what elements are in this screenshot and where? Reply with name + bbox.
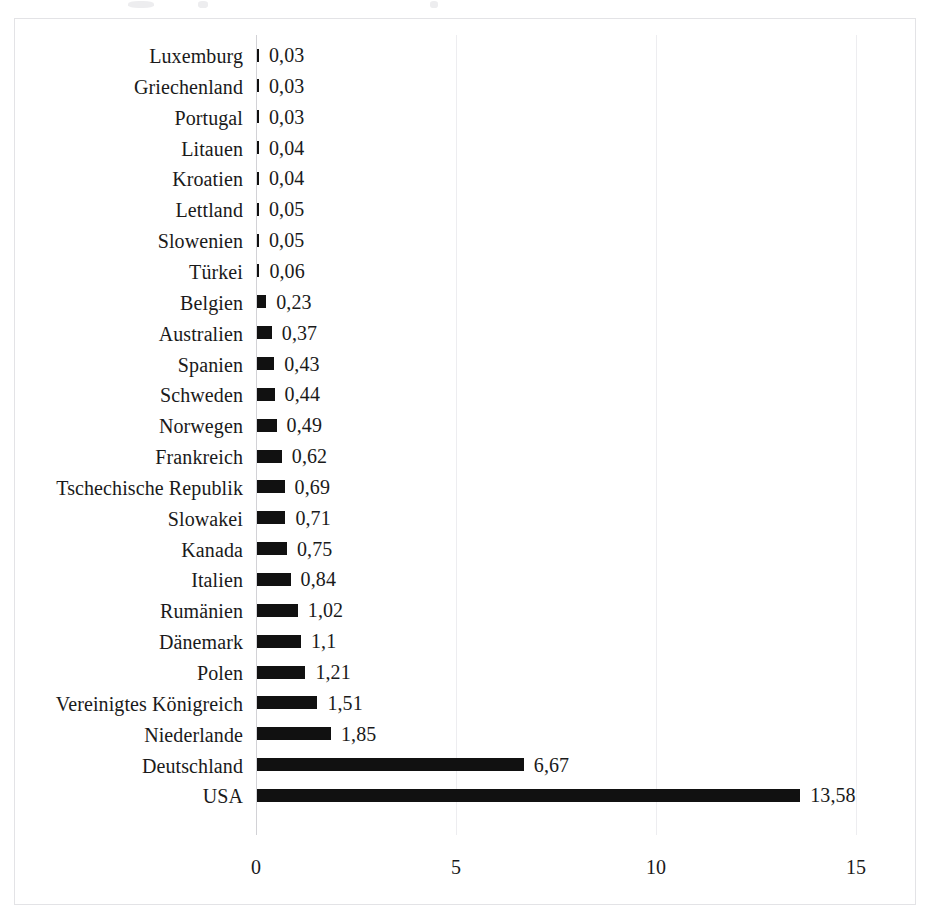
category-label: Frankreich — [15, 447, 243, 467]
bar[interactable] — [257, 172, 259, 185]
bar[interactable] — [257, 357, 274, 370]
bar-value-label: 0,03 — [269, 76, 304, 96]
bar-value-label: 0,03 — [269, 107, 304, 127]
bar-value-label: 0,71 — [295, 508, 330, 528]
category-label: Litauen — [15, 139, 243, 159]
bar[interactable] — [257, 110, 259, 123]
bar-value-label: 1,51 — [327, 693, 362, 713]
bar-value-label: 1,21 — [315, 662, 350, 682]
bar-value-label: 0,05 — [269, 230, 304, 250]
bar[interactable] — [257, 295, 266, 308]
bar-value-label: 13,58 — [810, 785, 856, 805]
x-tick-label-0: 0 — [226, 857, 286, 877]
category-label: Kroatien — [15, 169, 243, 189]
bar[interactable] — [257, 203, 259, 216]
gridline-15 — [856, 35, 857, 835]
category-label: Kanada — [15, 540, 243, 560]
bar[interactable] — [257, 727, 331, 740]
category-label: Slowakei — [15, 509, 243, 529]
gridline-5 — [456, 35, 457, 835]
bar-value-label: 6,67 — [534, 755, 569, 775]
bar[interactable] — [257, 388, 275, 401]
bar-value-label: 1,85 — [341, 724, 376, 744]
category-label: Schweden — [15, 385, 243, 405]
bar-value-label: 0,49 — [287, 415, 322, 435]
category-label: Portugal — [15, 108, 243, 128]
category-label: Spanien — [15, 355, 243, 375]
bar[interactable] — [257, 604, 298, 617]
bar[interactable] — [257, 480, 285, 493]
bar[interactable] — [257, 79, 259, 92]
x-tick-label-10: 10 — [626, 857, 686, 877]
bar[interactable] — [257, 49, 259, 62]
category-label: Luxemburg — [15, 46, 243, 66]
bar[interactable] — [257, 635, 301, 648]
bar-value-label: 0,44 — [285, 384, 320, 404]
value-axis-line — [256, 35, 257, 835]
bar-value-label: 0,04 — [269, 138, 304, 158]
category-label: Rumänien — [15, 601, 243, 621]
category-label: Australien — [15, 324, 243, 344]
bar[interactable] — [257, 789, 800, 802]
x-tick-label-15: 15 — [826, 857, 886, 877]
bar-value-label: 0,05 — [269, 199, 304, 219]
bar[interactable] — [257, 141, 259, 154]
category-label: Türkei — [15, 262, 243, 282]
bar[interactable] — [257, 758, 524, 771]
bar[interactable] — [257, 326, 272, 339]
category-label: Lettland — [15, 200, 243, 220]
bar-value-label: 0,84 — [301, 569, 336, 589]
category-label: Griechenland — [15, 77, 243, 97]
bar-value-label: 0,37 — [282, 323, 317, 343]
plot-area: 051015Luxemburg0,03Griechenland0,03Portu… — [15, 19, 917, 906]
bar-value-label: 0,06 — [269, 261, 304, 281]
bar-value-label: 0,43 — [284, 354, 319, 374]
bar-value-label: 0,69 — [295, 477, 330, 497]
category-label: Deutschland — [15, 756, 243, 776]
bar-value-label: 0,04 — [269, 168, 304, 188]
scan-artifact — [0, 0, 932, 14]
category-label: Belgien — [15, 293, 243, 313]
chart-frame: 051015Luxemburg0,03Griechenland0,03Portu… — [14, 18, 916, 905]
bar[interactable] — [257, 264, 259, 277]
x-tick-label-5: 5 — [426, 857, 486, 877]
bar[interactable] — [257, 419, 277, 432]
bar[interactable] — [257, 573, 291, 586]
bar[interactable] — [257, 542, 287, 555]
category-label: Dänemark — [15, 632, 243, 652]
category-label: Tschechische Republik — [15, 478, 243, 498]
category-label: Polen — [15, 663, 243, 683]
bar-value-label: 0,62 — [292, 446, 327, 466]
category-label: Niederlande — [15, 725, 243, 745]
category-label: Italien — [15, 570, 243, 590]
category-label: Slowenien — [15, 231, 243, 251]
bar[interactable] — [257, 450, 282, 463]
bar-value-label: 0,75 — [297, 539, 332, 559]
bar[interactable] — [257, 696, 317, 709]
category-label: USA — [15, 786, 243, 806]
bar-value-label: 0,03 — [269, 45, 304, 65]
gridline-10 — [656, 35, 657, 835]
bar-value-label: 1,1 — [311, 631, 336, 651]
bar[interactable] — [257, 511, 285, 524]
category-label: Vereinigtes Königreich — [15, 694, 243, 714]
bar[interactable] — [257, 234, 259, 247]
bar-value-label: 1,02 — [308, 600, 343, 620]
bar[interactable] — [257, 666, 305, 679]
category-label: Norwegen — [15, 416, 243, 436]
bar-value-label: 0,23 — [276, 292, 311, 312]
